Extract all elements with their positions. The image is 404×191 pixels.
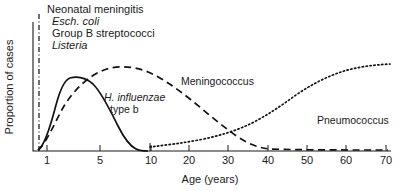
h-influenzae-label-line2: type b bbox=[110, 103, 139, 115]
x-tick-label-10: 10 bbox=[145, 154, 157, 166]
h-influenzae-label-line1: H. influenzae bbox=[104, 91, 165, 103]
pneumococcus-series-label: Pneumococcus bbox=[317, 114, 389, 126]
neonatal-annot-line-4: Listeria bbox=[52, 39, 87, 51]
x-axis-tick-labels: 1 5 10 20 30 40 50 60 70 bbox=[44, 154, 392, 166]
x-tick-label-50: 50 bbox=[301, 154, 313, 166]
x-axis-title: Age (years) bbox=[182, 173, 239, 185]
h-influenzae-series-label: H. influenzae type b bbox=[104, 91, 165, 115]
age-incidence-chart: 1 5 10 20 30 40 50 60 70 Age (years) Pro… bbox=[0, 0, 404, 191]
x-tick-label-1: 1 bbox=[44, 154, 50, 166]
neonatal-annot-line-1: Neonatal meningitis bbox=[47, 3, 144, 15]
chart-container: 1 5 10 20 30 40 50 60 70 Age (years) Pro… bbox=[0, 0, 404, 191]
x-tick-label-20: 20 bbox=[183, 154, 195, 166]
x-tick-label-5: 5 bbox=[97, 154, 103, 166]
neonatal-annot-line-2: Esch. coli bbox=[52, 15, 100, 27]
x-tick-label-40: 40 bbox=[262, 154, 274, 166]
neonatal-annotation-block: Neonatal meningitis Esch. coli Group B s… bbox=[47, 3, 155, 51]
x-tick-label-70: 70 bbox=[380, 154, 392, 166]
y-axis-title: Proportion of cases bbox=[3, 39, 15, 134]
neonatal-annot-line-3: Group B streptococci bbox=[52, 27, 155, 39]
meningococcus-series-label: Meningococcus bbox=[181, 75, 254, 87]
x-tick-label-60: 60 bbox=[340, 154, 352, 166]
x-tick-label-30: 30 bbox=[222, 154, 234, 166]
